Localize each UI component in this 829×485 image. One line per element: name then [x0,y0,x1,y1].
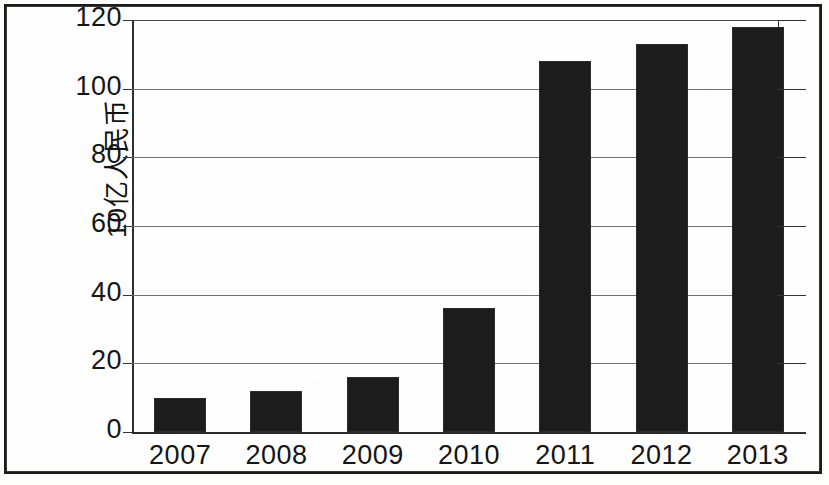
gridline [132,157,806,158]
bar [539,61,591,432]
y-axis-tick-right [778,89,806,90]
y-axis-tick [123,295,132,296]
chart-screenshot: 10亿人民币 120 100 80 60 40 20 0 20072008200… [0,0,829,485]
y-axis-tick [123,89,132,90]
plot-area [132,20,806,432]
bar [732,27,784,432]
y-tick-label: 0 [2,414,122,445]
bar [347,377,399,432]
y-axis-tick [123,363,132,364]
y-axis-tick [123,226,132,227]
y-axis-tick [123,432,132,433]
gridline [132,89,806,90]
y-tick-label: 100 [2,71,122,102]
y-axis-tick-right [778,157,806,158]
y-axis-tick-right [778,20,806,21]
y-tick-label: 40 [2,277,122,308]
y-axis-tick [123,157,132,158]
x-tick-label: 2013 [698,440,818,471]
gridline [132,226,806,227]
y-axis-tick-right [778,295,806,296]
gridline [132,432,806,434]
y-axis-tick-right [778,226,806,227]
y-tick-label: 80 [2,139,122,170]
y-tick-label: 60 [2,208,122,239]
gridline [132,295,806,296]
bar [636,44,688,432]
bar [443,308,495,432]
bar [250,391,302,432]
y-axis-tick-right [778,363,806,364]
y-axis-tick [123,20,132,21]
gridline [132,20,806,21]
bar [154,398,206,432]
y-tick-label: 120 [2,2,122,33]
y-tick-label: 20 [2,345,122,376]
y-axis-tick-right [778,432,806,433]
